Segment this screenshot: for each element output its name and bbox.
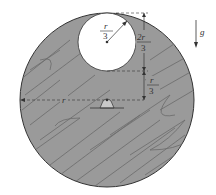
svg-text:3: 3 [149,86,154,96]
svg-text:3: 3 [103,31,108,41]
disk-radius-label: r [62,95,66,105]
upper-dimension-label: 2r [137,32,146,42]
gravity-arrow: g [194,20,205,48]
pivot-point [106,99,109,102]
gravity-label: g [200,27,205,37]
svg-text:3: 3 [141,43,146,53]
hole-center [106,41,109,44]
hole-radius-label: r [104,21,108,31]
lower-dimension-label: r [150,75,154,85]
disk-diagram: r 3 2r 3 r 3 r g [0,0,216,195]
